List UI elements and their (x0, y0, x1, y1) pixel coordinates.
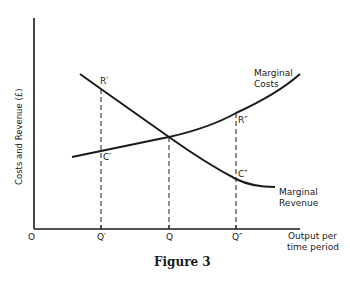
x-tick-label-q-prime: Q′ (97, 232, 106, 242)
marginal-costs-label-line1: Marginal (254, 68, 293, 78)
x-tick-label-q-double-prime: Q″ (232, 232, 243, 242)
marginal-revenue-label-line1: Marginal (279, 187, 318, 197)
x-axis-label-line2: time period (287, 242, 339, 252)
x-tick-label-q: Q (166, 232, 173, 242)
point-label-r-prime: R′ (100, 76, 108, 86)
origin-label: O (28, 232, 35, 242)
figure-caption: Figure 3 (154, 255, 211, 269)
point-label-c-prime: C′ (103, 152, 111, 162)
marginal-revenue-label-line2: Revenue (279, 198, 319, 208)
marginal-cost-revenue-diagram: Costs and Revenue (£) O Q′ Q Q″ Output p… (0, 0, 350, 283)
point-label-c-double-prime: C″ (238, 169, 248, 179)
marginal-costs-label-line2: Costs (254, 79, 279, 89)
point-label-r-double-prime: R″ (238, 115, 248, 125)
x-axis-label-line1: Output per (288, 231, 337, 241)
y-axis-label: Costs and Revenue (£) (14, 89, 24, 185)
